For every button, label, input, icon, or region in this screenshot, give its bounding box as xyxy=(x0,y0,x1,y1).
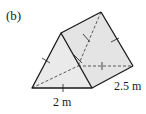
triangular-prism-diagram: (b) 2 m 2.5 m xyxy=(0,0,146,114)
base-dimension-label: 2 m xyxy=(53,95,71,110)
prism-drawing xyxy=(0,0,146,114)
part-label: (b) xyxy=(6,8,21,24)
length-dimension-label: 2.5 m xyxy=(114,79,141,94)
